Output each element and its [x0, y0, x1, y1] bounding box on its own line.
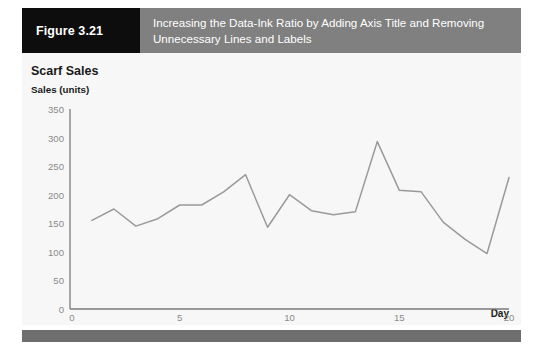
- figure-header: Figure 3.21 Increasing the Data-Ink Rati…: [22, 8, 521, 53]
- y-tick-50: 50: [36, 275, 64, 286]
- figure-caption-block: Increasing the Data-Ink Ratio by Adding …: [140, 8, 521, 53]
- x-tick-5: 5: [168, 312, 192, 323]
- figure-number-label: Figure 3.21: [36, 24, 103, 38]
- axis-lines: [70, 109, 509, 309]
- y-tick-100: 100: [36, 246, 64, 257]
- y-tick-250: 250: [36, 161, 64, 172]
- y-tick-300: 300: [36, 132, 64, 143]
- x-tick-10: 10: [278, 312, 302, 323]
- footer-bar: [22, 330, 521, 342]
- plot-area: 050100150200250300350 5101520 0: [22, 53, 521, 325]
- figure-caption-text: Increasing the Data-Ink Ratio by Adding …: [153, 15, 511, 46]
- chart-panel: Scarf Sales Sales (units) Day 0501001502…: [22, 53, 521, 325]
- data-series-line: [92, 142, 509, 254]
- line-chart-svg: [22, 53, 521, 325]
- x-tick-15: 15: [387, 312, 411, 323]
- y-tick-350: 350: [36, 104, 64, 115]
- figure-number-block: Figure 3.21: [22, 8, 140, 53]
- x-tick-20: 20: [497, 312, 521, 323]
- origin-tick-label: 0: [60, 312, 84, 323]
- y-tick-200: 200: [36, 189, 64, 200]
- figure-container: Figure 3.21 Increasing the Data-Ink Rati…: [0, 0, 543, 363]
- y-tick-150: 150: [36, 218, 64, 229]
